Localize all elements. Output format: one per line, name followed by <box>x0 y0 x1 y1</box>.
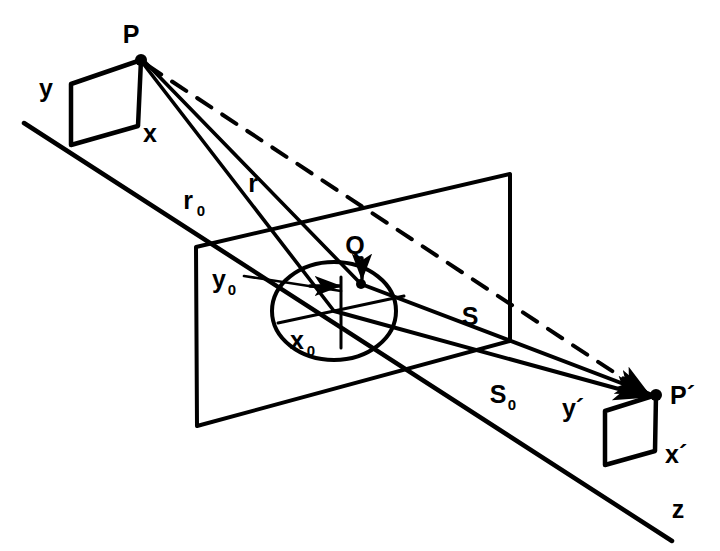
label-aperture-x0-subscript: 0 <box>307 342 315 359</box>
source-area-parallelogram <box>71 60 141 145</box>
label-image-x: x´ <box>665 440 687 468</box>
dashed-reference-line-p-to-pprime <box>147 65 650 396</box>
label-source-y: y <box>39 74 53 102</box>
ray-r0-line <box>142 62 334 311</box>
label-ray-r0: r 0 <box>183 186 205 219</box>
label-ray-S0-base: S <box>490 380 507 408</box>
label-ray-r0-base: r <box>183 186 193 214</box>
label-source-x: x <box>143 119 157 147</box>
label-image-point: P´ <box>670 381 695 409</box>
aperture-point-q-marker <box>356 279 366 289</box>
y0-leader-line <box>244 276 341 291</box>
label-ray-r: r <box>248 169 258 197</box>
z-axis-line <box>24 123 672 541</box>
label-aperture-y0: y 0 <box>212 265 236 298</box>
label-ray-S0: S 0 <box>490 380 517 413</box>
diagram-canvas: P y x r 0 r Q y 0 x 0 S S 0 P´ y´ x´ z <box>0 0 720 551</box>
label-ray-r0-subscript: 0 <box>197 202 205 219</box>
label-ray-S: S <box>462 302 479 330</box>
label-aperture-point-q: Q <box>345 231 364 259</box>
image-area-parallelogram <box>605 395 656 465</box>
diffraction-geometry-diagram: P y x r 0 r Q y 0 x 0 S S 0 P´ y´ x´ z <box>0 0 720 551</box>
label-image-y: y´ <box>562 394 584 422</box>
label-ray-S0-subscript: 0 <box>508 396 516 413</box>
label-aperture-x0-base: x <box>290 326 304 354</box>
label-aperture-y0-subscript: 0 <box>228 281 236 298</box>
source-point-marker <box>135 54 147 66</box>
label-axis-z: z <box>672 495 685 523</box>
label-aperture-y0-base: y <box>212 265 226 293</box>
aperture-plane <box>196 174 510 426</box>
image-point-marker <box>650 389 662 401</box>
label-source-point: P <box>123 20 140 48</box>
